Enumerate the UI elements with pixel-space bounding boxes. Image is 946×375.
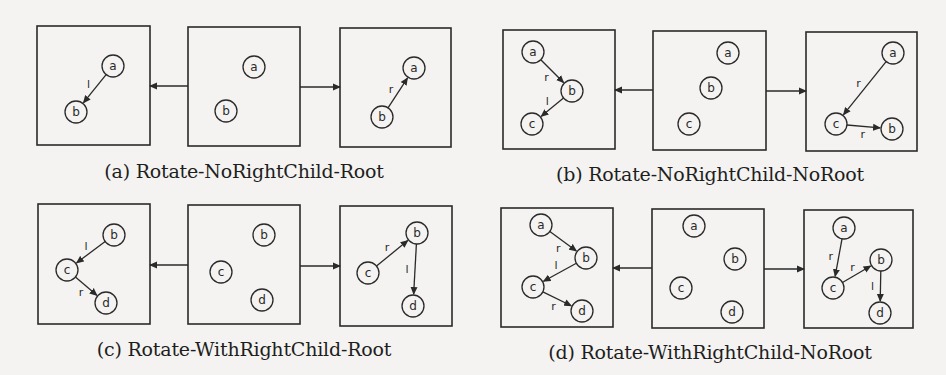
edge-label: r: [385, 241, 390, 254]
panel-d-3: rrlacbd: [804, 210, 913, 328]
panel-d-1: rlrabcd: [501, 208, 613, 327]
node-label-a: a: [724, 46, 731, 60]
subfigure-d: rlrabcdabcdrrlacbd: [501, 208, 913, 328]
edge-label: l: [406, 263, 409, 276]
subfigure-a: lababrab: [37, 26, 451, 147]
node-label-b: b: [582, 251, 590, 265]
caption-b: (b) Rotate-NoRightChild-NoRoot: [556, 163, 864, 185]
node-label-d: d: [102, 296, 110, 310]
panel-frame: [188, 205, 300, 324]
edge-label: r: [551, 300, 556, 313]
node-label-b: b: [110, 228, 118, 242]
rotation-diagram-figure: lababrabrlabcabcrracblrbcdbcdrlbcdrlrabc…: [0, 0, 946, 375]
edge-b-c: [544, 263, 577, 281]
edge-b-c: [541, 98, 563, 116]
node-label-c: c: [529, 117, 536, 131]
panel-frame: [38, 204, 150, 324]
edge-label: l: [546, 95, 549, 108]
node-label-b: b: [72, 105, 80, 119]
edge-a-b: [550, 232, 576, 251]
edge-label: l: [85, 240, 88, 253]
panel-a-3: rab: [340, 28, 451, 147]
edge-label: r: [79, 286, 84, 299]
edge-label: r: [828, 250, 833, 263]
panel-frame: [340, 206, 452, 326]
node-label-c: c: [833, 117, 840, 131]
node-label-a: a: [250, 60, 257, 74]
node-label-c: c: [530, 280, 537, 294]
edge-label: r: [389, 83, 394, 96]
node-label-d: d: [876, 306, 884, 320]
panel-c-1: lrbcd: [38, 204, 150, 324]
edge-label: r: [856, 77, 861, 90]
node-label-a: a: [889, 46, 896, 60]
node-label-a: a: [410, 61, 417, 75]
node-label-c: c: [830, 281, 837, 295]
node-label-b: b: [888, 122, 896, 136]
panel-b-1: rlabc: [503, 30, 615, 149]
node-label-b: b: [731, 252, 739, 266]
caption-c: (c) Rotate-WithRightChild-Root: [97, 338, 391, 360]
panel-c-3: rlbcd: [340, 206, 452, 326]
subfigure-b: rlabcabcrracb: [503, 30, 917, 151]
panel-a-2: ab: [188, 27, 300, 146]
edge-c-b: [843, 266, 871, 282]
panel-b-3: rracb: [806, 32, 917, 151]
node-label-b: b: [260, 228, 268, 242]
panel-frame: [340, 28, 451, 147]
panel-c-2: bcd: [188, 205, 300, 324]
panel-a-1: lab: [37, 26, 150, 145]
node-label-c: c: [678, 281, 685, 295]
edge-a-c: [844, 62, 887, 115]
node-label-a: a: [109, 59, 116, 73]
edge-label: l: [555, 259, 558, 272]
panel-d-2: abcd: [652, 209, 764, 328]
node-label-a: a: [529, 45, 536, 59]
node-label-b: b: [222, 104, 230, 118]
node-label-d: d: [258, 293, 266, 307]
panel-b-2: abc: [653, 31, 766, 150]
panel-frame: [503, 30, 615, 149]
panel-frame: [804, 210, 913, 328]
node-label-b: b: [568, 84, 576, 98]
edge-c-d: [543, 292, 571, 306]
node-label-b: b: [413, 226, 421, 240]
panel-frame: [652, 209, 764, 328]
edge-label: r: [861, 128, 866, 141]
node-label-c: c: [218, 265, 225, 279]
node-label-c: c: [686, 117, 693, 131]
panel-frame: [37, 26, 150, 145]
node-label-a: a: [537, 218, 544, 232]
edge-c-b: [377, 241, 408, 266]
panel-frame: [188, 27, 300, 146]
node-label-b: b: [378, 110, 386, 124]
edge-label: r: [556, 242, 561, 255]
subfigure-c: lrbcdbcdrlbcd: [38, 204, 452, 326]
edge-label: l: [871, 280, 874, 293]
node-label-a: a: [840, 221, 847, 235]
edge-b-d: [414, 244, 417, 294]
node-label-a: a: [690, 219, 697, 233]
node-label-d: d: [409, 299, 417, 313]
node-label-c: c: [64, 263, 71, 277]
edge-b-c: [77, 242, 106, 263]
node-label-d: d: [728, 305, 736, 319]
node-label-b: b: [877, 253, 885, 267]
caption-a: (a) Rotate-NoRightChild-Root: [104, 160, 383, 182]
node-label-c: c: [365, 266, 372, 280]
edge-a-c: [835, 239, 842, 276]
node-label-b: b: [707, 81, 715, 95]
edge-b-d: [880, 271, 881, 301]
edge-label: r: [850, 261, 855, 274]
caption-d: (d) Rotate-WithRightChild-NoRoot: [548, 341, 872, 363]
node-label-d: d: [578, 304, 586, 318]
edge-label: r: [544, 71, 549, 84]
edge-label: l: [87, 78, 90, 91]
